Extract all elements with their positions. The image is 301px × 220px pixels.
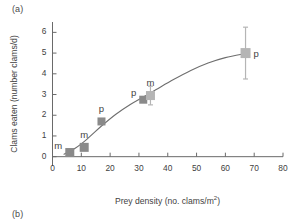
y-axis-tick-label: 6 xyxy=(33,26,47,36)
x-axis-tick-label: 60 xyxy=(215,163,235,173)
data-point-marker[interactable] xyxy=(97,117,105,125)
y-axis-tick-label: 2 xyxy=(33,109,47,119)
y-axis-tick-label: 1 xyxy=(33,130,47,140)
x-axis-tick-label: 30 xyxy=(129,163,149,173)
fitted-response-curve xyxy=(64,53,246,154)
data-point-marker[interactable] xyxy=(80,143,89,152)
data-point-marker[interactable] xyxy=(146,91,155,100)
data-point-marker[interactable] xyxy=(65,148,74,157)
y-axis-tick-label: 0 xyxy=(33,151,47,161)
x-axis-tick-label: 50 xyxy=(187,163,207,173)
data-point-annotation: p xyxy=(131,87,136,98)
data-point-annotation: m xyxy=(147,77,155,88)
data-point-annotation: m xyxy=(80,129,88,140)
y-axis-tick-label: 3 xyxy=(33,89,47,99)
x-axis-tick-label: 10 xyxy=(71,163,91,173)
data-point-annotation: p xyxy=(99,103,104,114)
x-axis-tick-label: 40 xyxy=(158,163,178,173)
x-axis-tick-label: 70 xyxy=(244,163,264,173)
y-axis-tick-label: 5 xyxy=(33,47,47,57)
y-axis-tick-label: 4 xyxy=(33,68,47,78)
x-axis-tick-label: 80 xyxy=(273,163,293,173)
data-point-annotation: p xyxy=(254,48,259,59)
figure-panel-a: (a) (b) Clams eaten (number clams/d) Pre… xyxy=(0,0,301,220)
data-point-marker[interactable] xyxy=(241,48,251,58)
data-point-annotation: m xyxy=(54,140,62,151)
error-bars-group xyxy=(148,27,248,105)
x-axis-tick-label: 0 xyxy=(43,163,63,173)
fitted-curve-group xyxy=(64,53,246,154)
x-axis-tick-label: 20 xyxy=(100,163,120,173)
